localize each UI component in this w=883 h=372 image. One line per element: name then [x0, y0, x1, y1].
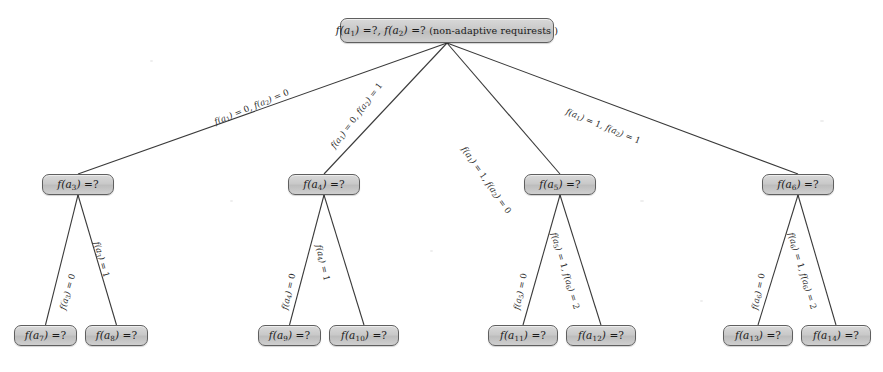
tree-node-a4: f(a4) =?	[288, 174, 360, 195]
tree-edge-label-root-a3: f(a1) = 0, f(a2) = 0	[213, 88, 290, 127]
tree-edge-label-root-a5: f(a1) = 1, f(a2) = 0	[459, 145, 513, 216]
tree-node-label: f(a12) =?	[576, 330, 626, 342]
tree-node-a12: f(a12) =?	[566, 325, 636, 346]
tree-node-label: f(a3) =?	[55, 179, 101, 191]
tree-edge-root-a6	[447, 43, 798, 174]
tree-node-label: f(a10) =?	[339, 330, 389, 342]
tree-edges-layer	[0, 0, 883, 372]
tree-edge-root-a4	[324, 43, 447, 174]
tree-node-a7: f(a7) =?	[14, 325, 77, 346]
tree-edge-label-a3-a8: f(a3) = 1	[91, 240, 110, 278]
scan-artifact-speck	[820, 120, 824, 122]
decision-tree-figure: f(a1) =?, f(a2) =? (non-adaptive require…	[0, 0, 883, 372]
tree-edge-label-a3-a7: f(a3) = 0	[58, 273, 77, 311]
scan-artifact-speck	[230, 200, 233, 202]
tree-node-label: f(a4) =?	[301, 179, 347, 191]
tree-edge-label-a6-a13: f(a6) = 0	[750, 272, 767, 310]
tree-edge-label-a4-a10: f(a4) = 1	[313, 244, 331, 282]
tree-node-label: f(a13) =?	[733, 330, 783, 342]
scan-artifact-speck	[640, 200, 644, 202]
tree-node-label: f(a5) =?	[537, 179, 583, 191]
tree-edge-label-a5-a11: f(a5) = 0	[512, 272, 529, 310]
tree-node-label: f(a7) =?	[23, 330, 69, 342]
tree-edge-a6-a13	[758, 195, 798, 325]
tree-node-label: f(a14) =?	[811, 330, 861, 342]
tree-node-a11: f(a11) =?	[488, 325, 558, 346]
tree-node-a13: f(a13) =?	[723, 325, 793, 346]
tree-node-a6: f(a6) =?	[762, 174, 834, 195]
scan-artifact-speck	[700, 300, 703, 302]
scan-artifact-speck	[150, 60, 153, 62]
tree-node-a10: f(a10) =?	[329, 325, 399, 346]
tree-node-root: f(a1) =?, f(a2) =? (non-adaptive require…	[340, 18, 554, 43]
tree-edge-label-root-a6: f(a1) = 1, f(a2) = 1	[564, 107, 641, 146]
tree-node-label: f(a8) =?	[94, 330, 140, 342]
tree-node-a3: f(a3) =?	[42, 174, 114, 195]
tree-edge-label-root-a4: f(a1) = 0, f(a2) = 1	[329, 81, 385, 150]
tree-edge-a4-a10	[324, 195, 364, 325]
tree-edge-label-a6-a14: f(a6) = 1, f(a6) = 2	[785, 231, 817, 310]
tree-node-label: f(a9) =?	[267, 330, 313, 342]
tree-node-a5: f(a5) =?	[524, 174, 596, 195]
tree-node-a14: f(a14) =?	[801, 325, 871, 346]
scan-artifact-speck	[430, 250, 433, 252]
tree-node-a9: f(a9) =?	[258, 325, 321, 346]
tree-edge-label-a5-a12: f(a5) = 1, f(a6) = 2	[548, 231, 580, 310]
tree-node-label: f(a11) =?	[498, 330, 548, 342]
tree-node-label: f(a1) =?, f(a2) =? (non-adaptive require…	[334, 25, 560, 37]
tree-edge-a5-a11	[523, 195, 560, 325]
tree-edge-label-a4-a9: f(a4) = 0	[280, 273, 298, 311]
tree-edge-root-a3	[78, 43, 447, 174]
tree-node-label: f(a6) =?	[775, 179, 821, 191]
tree-node-a8: f(a8) =?	[85, 325, 148, 346]
